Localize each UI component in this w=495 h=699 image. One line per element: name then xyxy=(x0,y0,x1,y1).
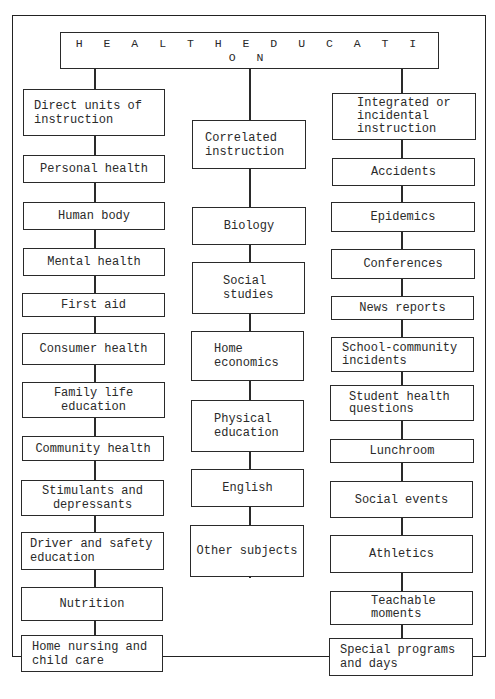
left-item: Personal health xyxy=(23,155,165,183)
left-item: Nutrition xyxy=(21,587,163,621)
left-item: Stimulants and depressants xyxy=(21,480,164,516)
right-item: Conferences xyxy=(331,249,475,279)
center-item: Other subjects xyxy=(190,525,304,577)
right-item: Lunchroom xyxy=(330,439,474,463)
left-heading: Direct units of instruction xyxy=(23,89,165,136)
center-item: Social studies xyxy=(192,262,305,314)
left-item: First aid xyxy=(22,293,165,317)
left-item: Community health xyxy=(22,436,164,461)
center-heading: Correlated instruction xyxy=(192,120,306,169)
right-item: Student health questions xyxy=(330,385,474,421)
right-item: Teachable moments xyxy=(330,591,473,625)
right-item: Special programs and days xyxy=(329,638,473,676)
right-item: Epidemics xyxy=(331,202,475,232)
left-item: Driver and safety education xyxy=(21,532,164,570)
center-item: Biology xyxy=(192,207,306,245)
left-item: Mental health xyxy=(23,248,165,276)
left-item: Human body xyxy=(23,202,165,230)
health-education-title: H E A L T H E D U C A T I O N xyxy=(60,32,439,69)
left-item: Family life education xyxy=(22,382,165,418)
left-item: Consumer health xyxy=(22,333,165,365)
right-item: School-community incidents xyxy=(331,337,474,372)
right-item: Accidents xyxy=(332,158,475,186)
center-item: Home economics xyxy=(191,331,304,381)
center-item: Physical education xyxy=(191,400,304,452)
right-heading: Integrated or incidental instruction xyxy=(332,93,476,140)
left-item: Home nursing and child care xyxy=(21,635,163,672)
right-item: Social events xyxy=(330,481,473,518)
center-item: English xyxy=(191,469,304,507)
right-item: News reports xyxy=(331,296,474,320)
right-item: Athletics xyxy=(330,535,473,573)
